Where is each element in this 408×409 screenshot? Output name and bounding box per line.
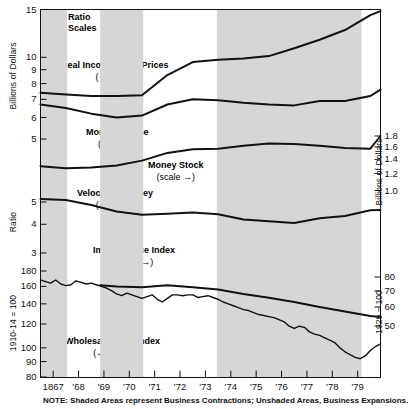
tick-label-ratio-left-1: 4 (0, 218, 37, 229)
tick-label-billions-of-dollars-left-0: 15 (0, 4, 37, 15)
shaded-band-2 (217, 10, 362, 378)
shaded-band-1 (100, 10, 143, 378)
tick-label-billions-of-dollars-right-4: 1.0 (385, 185, 398, 196)
tick-label-ratio-left-2: 3 (0, 247, 37, 258)
tick-label-billions-of-dollars-left-3: 8 (0, 78, 37, 89)
tick-label-index-right-1: 70 (385, 285, 396, 296)
tick-label-index-right-0: 80 (385, 271, 396, 282)
tick-label-ratio-left-0: 5 (0, 196, 37, 207)
tick-label-billions-of-dollars-left-6: 5 (0, 133, 37, 144)
tick-label-index-left-3: 120 (0, 318, 37, 329)
tick-label-index-right-2: 60 (385, 301, 396, 312)
x-tick-label-12: '79 (338, 381, 378, 392)
tick-label-billions-of-dollars-left-1: 10 (0, 51, 37, 62)
tick-label-billions-of-dollars-left-5: 6 (0, 112, 37, 123)
tick-label-billions-of-dollars-right-0: 1.8 (385, 130, 398, 141)
tick-label-billions-of-dollars-left-2: 9 (0, 64, 37, 75)
shaded-bands-group (41, 10, 362, 378)
tick-label-index-left-1: 160 (0, 280, 37, 291)
tick-label-billions-of-dollars-right-2: 1.4 (385, 153, 398, 164)
tick-label-index-left-5: 90 (0, 356, 37, 367)
tick-label-billions-of-dollars-right-3: 1.2 (385, 168, 398, 179)
tick-label-billions-of-dollars-right-1: 1.6 (385, 141, 398, 152)
shaded-band-0 (41, 10, 68, 378)
tick-label-index-right-3: 50 (385, 320, 396, 331)
tick-label-billions-of-dollars-left-4: 7 (0, 93, 37, 104)
tick-label-index-left-0: 180 (0, 265, 37, 276)
tick-label-index-left-4: 100 (0, 342, 37, 353)
tick-label-index-left-2: 140 (0, 298, 37, 309)
tick-label-index-left-6: 80 (0, 371, 37, 382)
